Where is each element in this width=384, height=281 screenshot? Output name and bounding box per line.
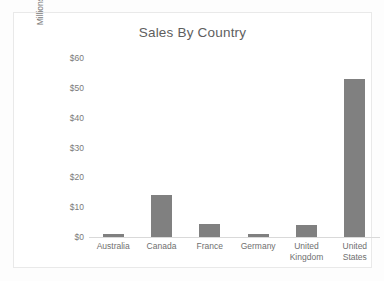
x-axis-tick-label: Canada <box>137 241 185 263</box>
y-axis-tick-label: $30 <box>70 143 84 153</box>
y-axis-tick-label: $0 <box>75 232 84 242</box>
chart-frame: Sales By Country Millions $0$10$20$30$40… <box>13 12 372 268</box>
y-axis-tick-label: $20 <box>70 172 84 182</box>
y-axis-tick-label: $10 <box>70 202 84 212</box>
bar[interactable] <box>344 79 365 237</box>
chart-title: Sales By Country <box>14 25 371 40</box>
x-axis-tick-label: United Kingdom <box>282 241 330 263</box>
bar[interactable] <box>151 195 172 237</box>
y-axis-tick-labels: $0$10$20$30$40$50$60 <box>44 54 84 248</box>
y-axis-title: Millions <box>35 0 45 57</box>
bar-series <box>89 58 379 237</box>
bar-slot <box>234 58 282 237</box>
x-axis-tick-label: France <box>186 241 234 263</box>
bar-slot <box>137 58 185 237</box>
bar-slot <box>186 58 234 237</box>
x-axis-line <box>89 237 380 238</box>
bar-slot <box>282 58 330 237</box>
bar-slot <box>89 58 137 237</box>
x-axis-tick-label: United States <box>331 241 379 263</box>
y-axis-tick-label: $60 <box>70 53 84 63</box>
y-axis-tick-label: $40 <box>70 113 84 123</box>
x-axis-tick-labels: AustraliaCanadaFranceGermanyUnited Kingd… <box>89 241 379 263</box>
chart-screenshot: { "chart_data": { "type": "bar", "title"… <box>0 0 384 281</box>
bar[interactable] <box>199 224 220 237</box>
bar-slot <box>331 58 379 237</box>
bar[interactable] <box>248 234 269 237</box>
x-axis-tick-label: Australia <box>89 241 137 263</box>
y-axis-tick-label: $50 <box>70 83 84 93</box>
bar[interactable] <box>103 234 124 237</box>
bar[interactable] <box>296 225 317 237</box>
x-axis-tick-label: Germany <box>234 241 282 263</box>
